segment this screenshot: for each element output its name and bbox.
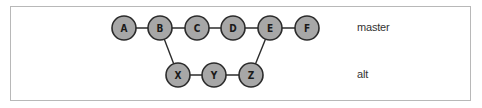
commit-node-d: D bbox=[221, 16, 245, 40]
commit-label: D bbox=[229, 23, 236, 34]
commit-label: X bbox=[175, 70, 182, 81]
commit-label: C bbox=[194, 23, 201, 34]
commit-node-f: F bbox=[295, 16, 319, 40]
commit-graph: ABCDEFXYZ bbox=[0, 0, 482, 108]
commit-label: B bbox=[157, 23, 164, 34]
branch-label-alt: alt bbox=[357, 68, 368, 80]
commit-node-b: B bbox=[148, 16, 172, 40]
commit-label: F bbox=[304, 23, 310, 34]
commit-label: A bbox=[121, 23, 128, 34]
commit-node-e: E bbox=[258, 16, 282, 40]
commit-node-x: X bbox=[166, 63, 190, 87]
commit-node-c: C bbox=[185, 16, 209, 40]
commit-node-a: A bbox=[112, 16, 136, 40]
branch-label-master: master bbox=[357, 21, 389, 33]
commit-label: Z bbox=[248, 70, 255, 81]
commit-node-z: Z bbox=[239, 63, 263, 87]
commit-node-y: Y bbox=[202, 63, 226, 87]
commit-label: Y bbox=[210, 70, 218, 81]
commit-label: E bbox=[267, 23, 273, 34]
